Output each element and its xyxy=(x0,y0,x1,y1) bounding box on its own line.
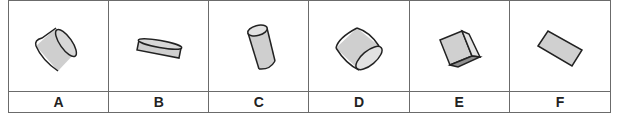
option-f-label[interactable]: F xyxy=(510,92,610,112)
option-e-label[interactable]: E xyxy=(410,92,510,112)
option-c-label[interactable]: C xyxy=(209,92,309,112)
rectangle-f-icon xyxy=(525,16,595,76)
option-b-image[interactable] xyxy=(109,1,209,92)
option-a-image[interactable] xyxy=(9,1,109,92)
option-e-image[interactable] xyxy=(410,1,510,92)
option-b-label[interactable]: B xyxy=(109,92,209,112)
option-d-image[interactable] xyxy=(309,1,409,92)
cylinder-d-icon xyxy=(324,16,394,76)
cylinder-a-icon xyxy=(24,16,94,76)
cylinder-c-icon xyxy=(224,16,294,76)
cube-e-icon xyxy=(424,16,494,76)
answer-options-grid: A B C D E F xyxy=(8,0,611,113)
option-d-label[interactable]: D xyxy=(309,92,409,112)
cylinder-b-icon xyxy=(124,16,194,76)
option-a-label[interactable]: A xyxy=(9,92,109,112)
option-c-image[interactable] xyxy=(209,1,309,92)
option-f-image[interactable] xyxy=(510,1,610,92)
